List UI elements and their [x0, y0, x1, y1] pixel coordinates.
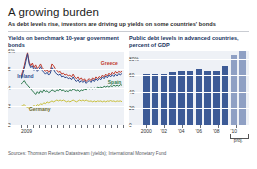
bar-item — [169, 72, 175, 125]
line-x-tick — [81, 125, 82, 128]
bar-item — [231, 55, 237, 124]
line-x-tick — [39, 125, 40, 128]
line-x-tick — [111, 125, 112, 128]
header-divider — [8, 31, 249, 32]
bar-chart-panel: Public debt levels in advanced countries… — [125, 35, 251, 136]
page-title: A growing burden — [8, 6, 251, 19]
line-chart-x-label-2009: 2009 — [21, 128, 32, 134]
line-gridline — [8, 51, 124, 52]
bar-x-label: '04 — [178, 128, 185, 134]
bar-x-label: 2000 — [141, 128, 152, 134]
series-label-germany: Germany — [29, 107, 51, 112]
line-gridline — [8, 69, 124, 70]
page-subtitle: As debt levels rise, investors are drivi… — [8, 21, 251, 28]
line-x-tick — [57, 125, 58, 128]
projection-label: proj. — [234, 138, 243, 143]
bar-item — [196, 69, 202, 124]
sources-note: Sources: Thomson Reuters Datastream (yie… — [8, 151, 166, 157]
line-chart-heading: Yields on benchmark 10-year government b… — [8, 35, 125, 49]
line-x-tick — [117, 125, 118, 128]
bar-x-label: '06 — [196, 128, 203, 134]
line-chart-x-axis: 2009 — [8, 125, 125, 136]
line-gridline — [8, 88, 124, 89]
series-label-spain: Spain — [108, 80, 122, 85]
series-label-greece: Greece — [101, 61, 118, 66]
bar-chart-heading: Public debt levels in advanced countries… — [129, 35, 251, 49]
bar-item — [187, 71, 193, 124]
bar-item — [204, 71, 210, 124]
bar-chart-y-axis: 80%6040200 — [129, 51, 142, 125]
bar-item — [239, 51, 245, 124]
line-x-tick — [75, 125, 76, 128]
line-gridline — [8, 106, 124, 107]
bar-item — [178, 71, 184, 124]
bar-item — [143, 74, 149, 124]
bar-item — [213, 71, 219, 124]
infographic-figure: A growing burden As debt levels rise, in… — [0, 0, 257, 169]
line-x-tick — [87, 125, 88, 128]
series-label-ireland: Ireland — [17, 74, 33, 79]
bar-gridline — [129, 92, 249, 93]
bar-gridline — [129, 108, 249, 109]
line-x-tick — [33, 125, 34, 128]
bar-item — [152, 74, 158, 124]
line-x-tick — [123, 125, 124, 128]
charts-container: Yields on benchmark 10-year government b… — [6, 35, 251, 136]
bar-x-label: '02 — [161, 128, 168, 134]
line-x-tick — [93, 125, 94, 128]
line-chart-ticks — [21, 125, 123, 129]
bar-gridline — [129, 59, 249, 60]
line-x-tick — [69, 125, 70, 128]
bar-gridline — [129, 75, 249, 76]
line-x-tick — [105, 125, 106, 128]
bar-item — [161, 74, 167, 125]
line-x-tick — [63, 125, 64, 128]
bar-chart-plot: 80%6040200 — [129, 51, 249, 125]
bar-chart-area — [142, 51, 247, 125]
bar-series — [142, 51, 247, 125]
line-x-tick — [51, 125, 52, 128]
line-x-tick — [45, 125, 46, 128]
line-x-tick — [99, 125, 100, 128]
bar-x-label: '08 — [213, 128, 220, 134]
line-chart-panel: Yields on benchmark 10-year government b… — [6, 35, 125, 136]
bar-chart-x-axis: 2000'02'04'06'08'10proj. — [129, 125, 251, 136]
line-chart-plot: 6%5432 GreeceIrelandSpainGermany — [8, 51, 124, 125]
